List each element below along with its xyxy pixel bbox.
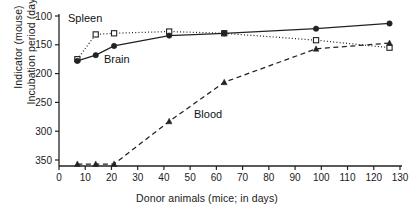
- marker-open-square: [313, 38, 318, 43]
- x-tick-label: 110: [340, 172, 356, 183]
- marker-filled-circle: [166, 33, 171, 38]
- marker-filled-triangle: [166, 118, 172, 124]
- series-label-brain: Brain: [104, 53, 130, 65]
- x-axis-title: Donor animals (mice; in days): [0, 192, 414, 204]
- series-label-spleen: Spleen: [68, 12, 102, 24]
- marker-open-square: [387, 45, 392, 50]
- marker-filled-triangle: [221, 79, 227, 85]
- marker-filled-circle: [313, 26, 318, 31]
- x-tick-label: 90: [290, 172, 302, 183]
- x-tick-label: 130: [392, 172, 409, 183]
- x-tick-label: 120: [365, 172, 382, 183]
- series-label-blood: Blood: [194, 108, 222, 120]
- x-tick-label: 70: [237, 172, 249, 183]
- marker-filled-circle: [111, 43, 116, 48]
- chart-figure: 1001502002503003500102030405060708090100…: [0, 0, 414, 215]
- marker-filled-circle: [387, 21, 392, 26]
- x-tick-label: 20: [106, 172, 118, 183]
- x-tick-label: 80: [263, 172, 275, 183]
- x-tick-label: 0: [56, 172, 62, 183]
- x-tick-label: 60: [211, 172, 223, 183]
- x-tick-label: 50: [185, 172, 197, 183]
- x-tick-label: 30: [132, 172, 144, 183]
- marker-filled-circle: [75, 58, 80, 63]
- x-tick-label: 100: [313, 172, 330, 183]
- x-tick-label: 10: [80, 172, 92, 183]
- marker-open-square: [111, 31, 116, 36]
- x-tick-label: 40: [158, 172, 170, 183]
- y-tick-label: 350: [35, 155, 52, 166]
- y-axis-title-line-1: Indicator (mouse): [12, 0, 25, 133]
- y-axis-title-line-2: Incubation period (days): [25, 0, 38, 133]
- y-axis-title: Indicator (mouse) Incubation period (day…: [12, 0, 40, 133]
- marker-open-square: [93, 32, 98, 37]
- marker-filled-circle: [93, 52, 98, 57]
- marker-filled-circle: [222, 31, 227, 36]
